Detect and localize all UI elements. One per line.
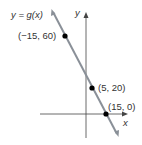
y-axis-arrow-icon bbox=[84, 12, 89, 18]
point-label-neg15-60: (−15, 60) bbox=[18, 31, 56, 41]
point-label-5-20: (5, 20) bbox=[98, 83, 125, 93]
point-neg15-60 bbox=[62, 33, 67, 38]
point-15-0 bbox=[103, 111, 108, 116]
point-5-20 bbox=[89, 85, 94, 90]
x-axis-label: x bbox=[123, 118, 128, 128]
function-label: y = g(x) bbox=[11, 10, 43, 20]
point-label-15-0: (15, 0) bbox=[108, 102, 135, 112]
graph-diagram bbox=[0, 0, 142, 145]
x-axis-arrow-icon bbox=[122, 112, 128, 117]
y-axis-label: y bbox=[75, 8, 80, 18]
